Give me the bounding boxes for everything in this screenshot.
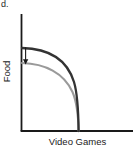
plot-area — [0, 0, 134, 153]
ppf-figure: d. Food Video Games — [0, 0, 134, 153]
ppf-curves — [22, 48, 79, 131]
